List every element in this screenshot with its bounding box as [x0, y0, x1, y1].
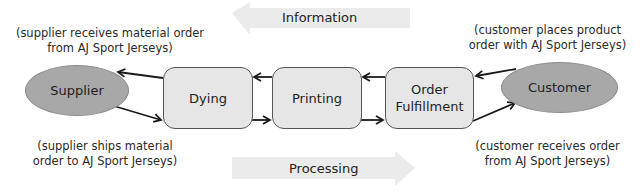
supplier-receives-note-line1: (supplier receives material order: [10, 26, 210, 41]
edge-dying-to-supplier: [118, 72, 163, 78]
edge-supplier-to-dying: [114, 106, 161, 120]
order-fulfillment-node: Order Fulfillment: [385, 67, 474, 129]
dying-label: Dying: [189, 90, 227, 107]
customer-receives-note-line1: (customer receives order: [460, 139, 635, 154]
order-fulfillment-label-line2: Fulfillment: [395, 98, 463, 115]
customer-places-note-line2: order with AJ Sport Jerseys): [455, 38, 640, 53]
customer-node: Customer: [501, 62, 618, 113]
customer-receives-note-line2: from AJ Sport Jerseys): [460, 154, 635, 169]
edge-fulfillment-to-customer: [473, 103, 515, 121]
supplier-receives-note: (supplier receives material order from A…: [10, 26, 210, 56]
supplier-ships-note: (supplier ships material order to AJ Spo…: [20, 139, 190, 169]
customer-label: Customer: [528, 79, 591, 96]
supplier-receives-note-line2: from AJ Sport Jerseys): [10, 41, 210, 56]
printing-node: Printing: [272, 67, 362, 129]
customer-places-note-line1: (customer places product: [455, 23, 640, 38]
supplier-ships-note-line1: (supplier ships material: [20, 139, 190, 154]
supplier-node: Supplier: [25, 65, 129, 116]
customer-receives-note: (customer receives order from AJ Sport J…: [460, 139, 635, 169]
order-fulfillment-label-line1: Order: [411, 81, 448, 98]
customer-places-note: (customer places product order with AJ S…: [455, 23, 640, 53]
supplier-ships-note-line2: order to AJ Sport Jerseys): [20, 154, 190, 169]
printing-label: Printing: [292, 90, 342, 107]
supplier-label: Supplier: [50, 82, 104, 99]
dying-node: Dying: [163, 67, 253, 129]
